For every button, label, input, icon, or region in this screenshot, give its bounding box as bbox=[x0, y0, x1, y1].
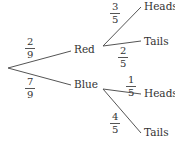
prob-blue-tails-denominator: 5 bbox=[112, 124, 118, 135]
prob-red-tails-denominator: 5 bbox=[120, 58, 126, 69]
branch-root-red bbox=[8, 51, 71, 68]
prob-red-heads-denominator: 5 bbox=[112, 14, 118, 25]
prob-red-tails: 2 5 bbox=[118, 46, 128, 69]
prob-blue: 7 9 bbox=[25, 77, 35, 100]
prob-blue-tails-numerator: 4 bbox=[110, 112, 120, 124]
node-blue-tails: Tails bbox=[144, 127, 169, 138]
tree-branches bbox=[0, 0, 175, 142]
prob-red-heads-numerator: 3 bbox=[110, 2, 120, 14]
prob-red-tails-numerator: 2 bbox=[118, 46, 128, 58]
prob-blue-heads: 1 5 bbox=[126, 75, 136, 98]
prob-blue-tails: 4 5 bbox=[110, 112, 120, 135]
node-blue: Blue bbox=[74, 79, 98, 90]
branch-root-blue bbox=[8, 68, 71, 85]
prob-blue-heads-denominator: 5 bbox=[128, 87, 134, 98]
prob-red-heads: 3 5 bbox=[110, 2, 120, 25]
node-blue-heads: Heads bbox=[144, 88, 175, 99]
branch-red-heads bbox=[103, 7, 141, 46]
prob-red-denominator: 9 bbox=[27, 49, 33, 60]
prob-blue-numerator: 7 bbox=[25, 77, 35, 89]
prob-blue-heads-numerator: 1 bbox=[126, 75, 136, 87]
prob-red: 2 9 bbox=[25, 37, 35, 60]
prob-red-numerator: 2 bbox=[25, 37, 35, 49]
node-red-tails: Tails bbox=[144, 36, 169, 47]
node-red-heads: Heads bbox=[144, 1, 175, 12]
node-red: Red bbox=[74, 44, 95, 55]
prob-blue-denominator: 9 bbox=[27, 89, 33, 100]
